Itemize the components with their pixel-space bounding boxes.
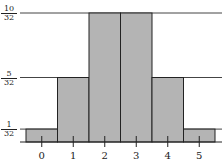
histogram-chart bbox=[0, 0, 222, 168]
fraction-denominator: 32 bbox=[1, 79, 17, 87]
y-tick-label: 532 bbox=[1, 70, 17, 87]
bar bbox=[58, 78, 90, 143]
fraction-denominator: 32 bbox=[1, 130, 17, 138]
bar bbox=[89, 13, 121, 142]
y-tick-label: 132 bbox=[1, 121, 17, 138]
x-tick-label: 3 bbox=[130, 150, 142, 161]
x-tick-label: 1 bbox=[67, 150, 79, 161]
bar bbox=[152, 78, 184, 143]
x-tick-label: 2 bbox=[99, 150, 111, 161]
x-tick-label: 5 bbox=[193, 150, 205, 161]
x-tick-label: 0 bbox=[36, 150, 48, 161]
x-tick-label: 4 bbox=[162, 150, 174, 161]
fraction-denominator: 32 bbox=[1, 14, 17, 22]
bar bbox=[121, 13, 153, 142]
y-tick-label: 1032 bbox=[1, 5, 17, 22]
